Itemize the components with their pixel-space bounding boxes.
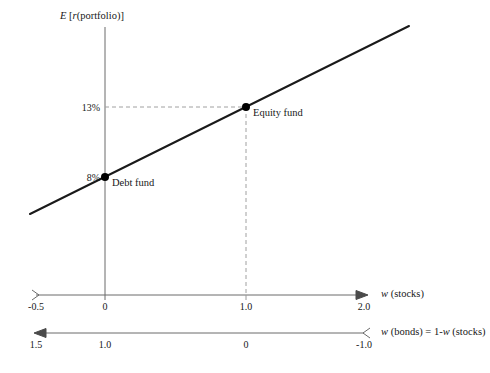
x-tick-label-20: 2.0 [358,301,371,312]
point-label-equity-fund: Equity fund [253,107,303,118]
x2-tick-label-15: 1.5 [30,339,43,350]
x2-axis-title-end: (stocks) [450,326,486,337]
x2-tick-label-0: 0 [244,339,249,350]
break-right-icon [363,328,370,338]
y-axis-title: E [r(portfolio)] [60,10,124,22]
chart-figure: E [r(portfolio)] 13% 8% Debt fund Equity… [0,0,490,373]
x-axis-title-rest: (stocks) [388,288,424,299]
x2-axis-title-w1: w [381,326,388,337]
chart-canvas [0,0,490,373]
data-point-debt-fund [101,173,109,181]
y-tick-label-13: 13% [72,102,100,113]
x-axis-title: w (stocks) [381,288,424,299]
x-axis-title-w: w [381,288,388,299]
arrow-right-icon [356,291,368,300]
point-label-debt-fund: Debt fund [112,177,154,188]
x2-tick-label-neg10: -1.0 [356,339,372,350]
y-axis-title-close: (portfolio)] [77,10,124,21]
x-tick-label-neg05: -0.5 [28,301,44,312]
x-tick-label-0: 0 [103,301,108,312]
x2-tick-label-10: 1.0 [99,339,112,350]
y-tick-label-8: 8% [72,172,100,183]
data-point-equity-fund [242,103,250,111]
x2-axis-title-w2: w [443,326,450,337]
x-tick-label-10: 1.0 [240,301,253,312]
x2-axis-title-mid: (bonds) = 1- [388,326,443,337]
x2-axis-title: w (bonds) = 1-w (stocks) [381,326,486,337]
arrow-left-icon [34,329,46,338]
portfolio-return-line [30,26,409,214]
